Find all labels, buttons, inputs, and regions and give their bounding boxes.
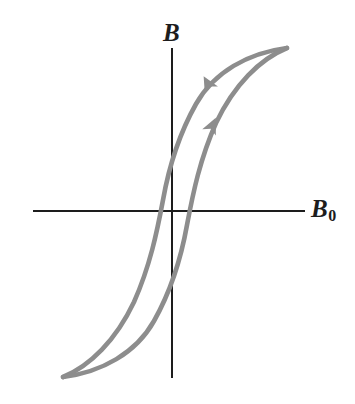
horizontal-axis-label: B0	[311, 196, 336, 224]
hysteresis-descending-branch	[63, 48, 287, 377]
hysteresis-plot-canvas	[0, 0, 355, 404]
hysteresis-ascending-branch	[63, 48, 287, 377]
vertical-axis-label: B	[163, 20, 180, 45]
horizontal-axis-label-subscript: 0	[328, 207, 336, 224]
hysteresis-loop-figure: B B0	[0, 0, 355, 404]
horizontal-axis-label-base: B	[311, 195, 328, 222]
